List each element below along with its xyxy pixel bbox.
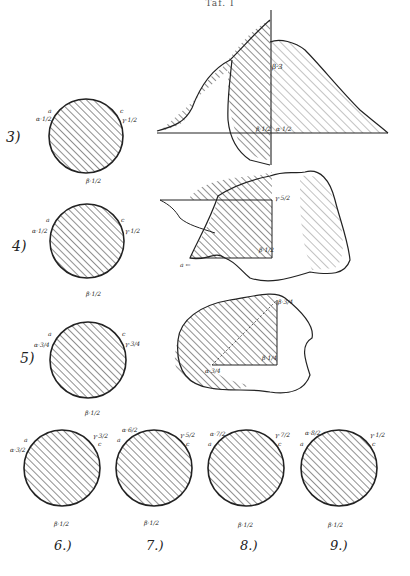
figure-3: 3) a α·1/2 c γ·1/2 β·1/2 <box>6 99 137 185</box>
hatched-circle <box>24 430 100 506</box>
svg-text:c: c <box>372 440 376 447</box>
svg-text:γ·1/2: γ·1/2 <box>122 116 137 124</box>
hatched-circle <box>50 322 126 398</box>
figure-number: 6.) <box>54 538 71 553</box>
figure-number: 3) <box>6 129 20 145</box>
svg-text:γ·3/4: γ·3/4 <box>125 340 140 348</box>
figure-plate: 3) a α·1/2 c γ·1/2 β·1/2 4) a α·1/2 c γ·… <box>0 0 410 576</box>
svg-text:β·1/2: β·1/2 <box>85 177 101 185</box>
svg-text:γ·5/2: γ·5/2 <box>180 431 195 439</box>
svg-text:α·1/2: α·1/2 <box>32 227 48 234</box>
shape-mountain: β·3 β·1/2 α·1/2 <box>157 10 388 165</box>
svg-text:β·1/2: β·1/2 <box>84 409 100 417</box>
svg-text:γ·7/2: γ·7/2 <box>275 431 290 439</box>
svg-text:γ·1/2: γ·1/2 <box>370 431 385 439</box>
figure-9: a α·8/2 c γ·1/2 β·1/2 9.) <box>300 429 385 553</box>
svg-text:α·6/2: α·6/2 <box>122 426 138 433</box>
svg-text:α·3/4: α·3/4 <box>34 341 50 348</box>
svg-text:a: a <box>46 216 50 223</box>
shape-blob-triangle: β·3/4 β·1/4 α·3/4 <box>175 294 313 393</box>
hatched-circle <box>50 204 124 278</box>
svg-text:β·1/2: β·1/2 <box>258 246 274 254</box>
svg-text:β·3/4: β·3/4 <box>277 298 293 306</box>
svg-text:β·3: β·3 <box>271 63 283 71</box>
figure-8: a α·7/2 c γ·7/2 β·1/2 8.) <box>208 430 290 553</box>
svg-text:α·7/2: α·7/2 <box>210 430 226 437</box>
figure-6: a α·3/2 c γ·3/2 β·1/2 6.) <box>10 430 108 553</box>
svg-text:c: c <box>120 107 124 114</box>
svg-text:β·1/2: β·1/2 <box>53 520 69 528</box>
svg-text:c: c <box>121 216 125 223</box>
svg-text:β·1/2: β·1/2 <box>255 125 271 133</box>
svg-text:α·1/2: α·1/2 <box>276 125 292 132</box>
svg-text:α·1/2: α·1/2 <box>36 115 52 122</box>
hatched-circle <box>49 99 123 173</box>
svg-text:α·3/4: α·3/4 <box>205 367 221 374</box>
svg-text:a: a <box>48 107 52 114</box>
hatched-circle <box>208 430 284 506</box>
svg-text:α·3/2: α·3/2 <box>10 446 26 453</box>
svg-text:β·1/2: β·1/2 <box>237 521 253 529</box>
figure-number: 7.) <box>146 538 163 553</box>
svg-text:c: c <box>98 440 102 447</box>
svg-text:β·1/2: β·1/2 <box>143 519 159 527</box>
hatched-circle <box>116 430 192 506</box>
svg-text:c: c <box>186 440 190 447</box>
figure-number: 9.) <box>330 538 347 553</box>
figure-5: 5) a α·3/4 c γ·3/4 β·1/2 <box>20 322 140 417</box>
figure-number: 4) <box>11 238 26 254</box>
shape-blob-square: γ·5/2 β·1/2 a ← <box>160 171 350 281</box>
figure-4: 4) a α·1/2 c γ·1/2 β·1/2 <box>11 204 140 298</box>
figure-number: 8.) <box>240 538 257 553</box>
svg-text:γ·5/2: γ·5/2 <box>275 194 290 202</box>
svg-text:a: a <box>208 440 212 447</box>
svg-text:γ·1/2: γ·1/2 <box>125 227 140 235</box>
svg-text:β·1/2: β·1/2 <box>327 521 343 529</box>
svg-text:a ←: a ← <box>180 261 191 268</box>
figure-number: 5) <box>20 350 34 366</box>
svg-text:a: a <box>300 440 304 447</box>
svg-text:β·1/2: β·1/2 <box>85 290 101 298</box>
svg-text:β·1/4: β·1/4 <box>261 354 277 362</box>
svg-text:c: c <box>278 440 282 447</box>
svg-text:a: a <box>48 330 52 337</box>
svg-text:γ·3/2: γ·3/2 <box>93 432 108 440</box>
figure-7: a α·6/2 c γ·5/2 β·1/2 7.) <box>116 426 195 553</box>
svg-text:a: a <box>117 436 121 443</box>
svg-text:a: a <box>24 436 28 443</box>
svg-text:α·8/2: α·8/2 <box>305 429 321 436</box>
hatched-circle <box>301 430 377 506</box>
svg-text:c: c <box>122 330 126 337</box>
